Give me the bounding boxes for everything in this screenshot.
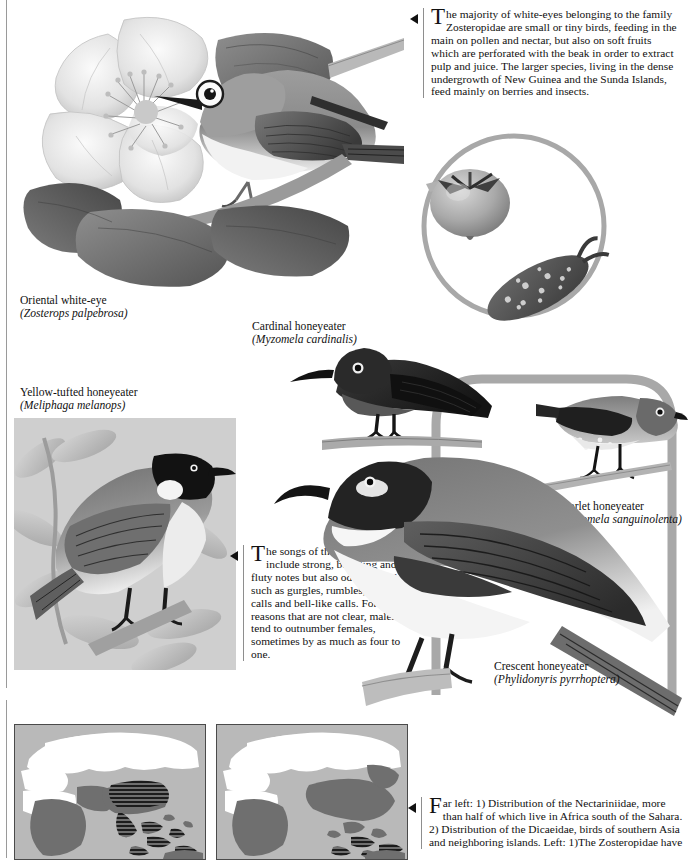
oriental-white-eye-illustration bbox=[12, 4, 404, 290]
dropcap: F bbox=[429, 796, 443, 815]
caption-crescent-honeyeater: Crescent honeyeater (Phylidonyris pyrrho… bbox=[494, 660, 620, 687]
triangle-marker-icon bbox=[230, 551, 238, 561]
caption-latin-name: (Meliphaga melanops) bbox=[20, 399, 138, 412]
white-eyes-intro-text: The majority of white-eyes belonging to … bbox=[431, 8, 682, 98]
textblock-rule bbox=[423, 8, 424, 98]
caption-latin-name: (Phylidonyris pyrrhoptera) bbox=[494, 673, 620, 686]
caption-common-name: Cardinal honeyeater bbox=[252, 320, 357, 333]
body-text: ar left: 1) Distribution of the Nectarin… bbox=[429, 797, 682, 848]
distribution-maps-text: Far left: 1) Distribution of the Nectari… bbox=[429, 797, 684, 849]
textblock-rule bbox=[421, 797, 422, 849]
left-margin-rule bbox=[6, 0, 7, 688]
crescent-honeyeater-illustration bbox=[274, 430, 688, 720]
body-text: he majority of white-eyes belonging to t… bbox=[431, 8, 677, 97]
dropcap: T bbox=[251, 544, 266, 563]
triangle-marker-icon bbox=[408, 803, 416, 813]
textblock-rule bbox=[243, 545, 244, 661]
caption-common-name: Yellow-tufted honeyeater bbox=[20, 386, 138, 399]
dropcap: T bbox=[431, 7, 446, 26]
caption-yellow-tufted-honeyeater: Yellow-tufted honeyeater (Meliphaga mela… bbox=[20, 386, 138, 413]
caption-oriental-white-eye: Oriental white-eye (Zosterops palpebrosa… bbox=[20, 294, 128, 321]
left-margin-rule-lower bbox=[6, 700, 7, 858]
triangle-marker-icon bbox=[410, 14, 418, 24]
distribution-maps-textblock: Far left: 1) Distribution of the Nectari… bbox=[408, 797, 684, 849]
map-panel-nectariniidae bbox=[14, 724, 206, 860]
caption-common-name: Oriental white-eye bbox=[20, 294, 128, 307]
fruit-inset-illustration bbox=[408, 128, 620, 324]
yellow-tufted-honeyeater-illustration bbox=[14, 418, 236, 670]
map-panel-dicaeidae bbox=[216, 724, 408, 860]
white-eyes-intro-textblock: The majority of white-eyes belonging to … bbox=[410, 8, 682, 98]
caption-latin-name: (Zosterops palpebrosa) bbox=[20, 307, 128, 320]
caption-common-name: Crescent honeyeater bbox=[494, 660, 620, 673]
distribution-maps-strip bbox=[14, 718, 406, 858]
